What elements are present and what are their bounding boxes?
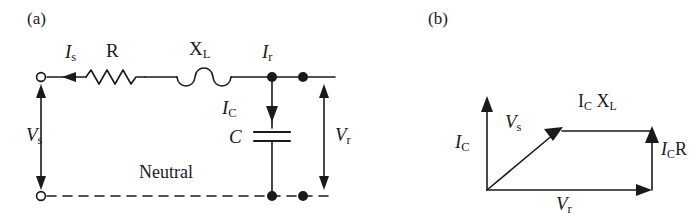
phasor-vr-head (636, 184, 652, 196)
label-source-voltage-a: Vs (26, 125, 43, 144)
phasor-vs-head (544, 127, 563, 141)
top-conductor (47, 68, 335, 86)
label-receiving-voltage-a: Vr (335, 125, 351, 144)
label-ic-xl-drop: IC XL (578, 92, 617, 110)
label-resistor: R (106, 41, 119, 60)
label-source-current: Is (65, 42, 76, 61)
inductor-symbol (177, 68, 231, 86)
capacitor-branch (254, 77, 290, 196)
node-top-inner (267, 72, 277, 82)
sending-terminal-bottom (37, 192, 46, 201)
figure-root: (a) (b) Is R XL Ir IC C Vs Vr Neutral IC… (0, 0, 692, 223)
phasor-ic-head (481, 96, 493, 112)
vr-arrow (319, 84, 329, 190)
label-source-voltage-b: Vs (505, 112, 522, 131)
label-neutral: Neutral (139, 163, 193, 181)
is-arrow (62, 72, 76, 82)
label-capacitor-current-b: IC (455, 132, 470, 151)
panel-a-tag: (a) (27, 10, 46, 27)
sending-terminal-top (37, 73, 46, 82)
label-inductive-reactance: XL (189, 39, 210, 58)
node-bottom-outer (298, 191, 308, 201)
label-ic-r-drop: ICR (661, 140, 687, 158)
label-receiving-voltage-b: Vr (556, 194, 572, 213)
phasor-vs-line (487, 134, 554, 190)
resistor-symbol (86, 70, 145, 84)
label-capacitor: C (229, 127, 242, 146)
phasor-icr-head (645, 126, 659, 143)
node-top-outer (298, 72, 308, 82)
label-receiving-current: Ir (262, 42, 273, 61)
node-bottom-inner (267, 191, 277, 201)
panel-b-tag: (b) (428, 10, 448, 27)
label-capacitor-current-a: IC (222, 98, 237, 117)
